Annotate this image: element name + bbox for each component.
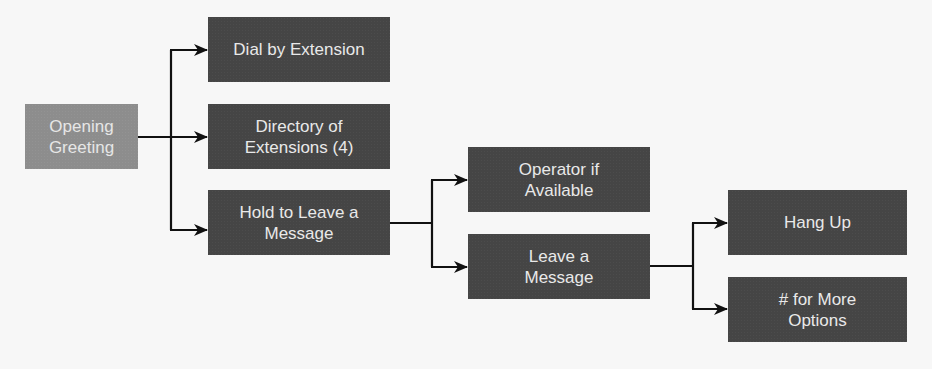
node-label: Directory of Extensions (4)	[245, 116, 354, 158]
node-label: Leave a Message	[525, 246, 594, 288]
node-label: Hang Up	[784, 212, 851, 233]
node-label: Operator if Available	[519, 159, 599, 201]
node-hang-up[interactable]: Hang Up	[728, 190, 907, 255]
node-hold-to-leave-message[interactable]: Hold to Leave a Message	[208, 190, 390, 255]
node-label: Dial by Extension	[233, 39, 364, 60]
node-directory-of-extensions[interactable]: Directory of Extensions (4)	[208, 104, 390, 169]
node-label: Hold to Leave a Message	[239, 202, 358, 244]
node-label: Opening Greeting	[49, 116, 114, 158]
connector-hold-branch	[390, 180, 467, 267]
node-operator-if-available[interactable]: Operator if Available	[468, 147, 650, 212]
node-opening-greeting[interactable]: Opening Greeting	[25, 104, 138, 169]
node-label: # for More Options	[779, 289, 856, 331]
node-more-options[interactable]: # for More Options	[728, 277, 907, 342]
node-dial-by-extension[interactable]: Dial by Extension	[208, 17, 390, 82]
call-flow-diagram: Opening Greeting Dial by Extension Direc…	[0, 0, 932, 369]
connector-greeting-branch	[138, 50, 207, 230]
connector-message-branch	[650, 223, 727, 309]
node-leave-a-message[interactable]: Leave a Message	[468, 234, 650, 299]
